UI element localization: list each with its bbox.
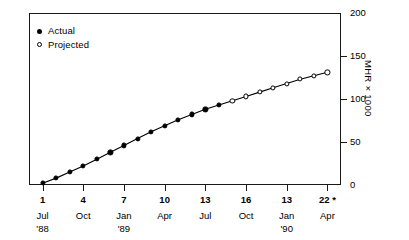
x-axis-tick-number: 1	[40, 194, 45, 205]
x-axis-tick-month: Jul	[36, 210, 48, 221]
x-axis-tick	[165, 185, 166, 191]
series-connector-line	[29, 13, 341, 185]
x-axis-tick-month: Oct	[76, 210, 91, 221]
y-axis-tick-label: 50	[350, 137, 361, 147]
x-axis-tick	[327, 185, 328, 191]
x-axis-tick-month: Jul	[199, 210, 211, 221]
plot-area	[29, 13, 341, 185]
x-axis-tick-number: 10	[159, 194, 170, 205]
x-axis-tick-month: Jan	[279, 210, 294, 221]
x-axis-tick	[205, 185, 206, 191]
x-axis-tick-number: 13	[200, 194, 211, 205]
y-axis-title: MHR × 1000	[363, 60, 374, 117]
x-axis-tick-number: 7	[121, 194, 126, 205]
x-axis-tick-year: '88	[36, 223, 48, 234]
x-axis-tick	[83, 185, 84, 191]
y-axis-tick	[341, 99, 347, 100]
x-axis-tick-month: Oct	[239, 210, 254, 221]
x-axis-tick-year: '89	[118, 223, 130, 234]
x-axis-tick	[43, 185, 44, 191]
y-axis-ticks	[341, 13, 348, 185]
y-axis-tick	[341, 142, 347, 143]
x-axis-tick-month: Jan	[116, 210, 131, 221]
x-axis-tick-month: Apr	[157, 210, 172, 221]
x-axis-tick-number: 4	[81, 194, 86, 205]
x-axis-tick-number: 16	[241, 194, 252, 205]
x-axis-tick	[124, 185, 125, 191]
x-axis-tick	[287, 185, 288, 191]
chart-container: Actual Projected 200150100500 MHR × 1000…	[0, 0, 409, 240]
x-axis-tick-month: Apr	[320, 210, 335, 221]
x-axis-tick-number: 13	[281, 194, 292, 205]
x-axis-tick	[246, 185, 247, 191]
y-axis-tick	[341, 56, 347, 57]
x-axis-tick-number: 22 *	[319, 194, 336, 205]
y-axis-tick-label: 0	[350, 180, 355, 190]
x-axis-tick-year: '90	[281, 223, 293, 234]
y-axis-tick-label: 200	[350, 8, 366, 18]
